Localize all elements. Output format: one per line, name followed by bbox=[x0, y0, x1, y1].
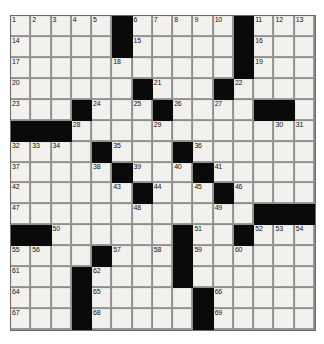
letter-cell[interactable] bbox=[52, 246, 72, 267]
letter-cell[interactable] bbox=[295, 267, 315, 288]
letter-cell[interactable]: 11 bbox=[254, 16, 274, 37]
letter-cell[interactable]: 22 bbox=[234, 79, 254, 100]
letter-cell[interactable] bbox=[72, 58, 92, 79]
letter-cell[interactable]: 7 bbox=[153, 16, 173, 37]
letter-cell[interactable] bbox=[31, 183, 51, 204]
letter-cell[interactable] bbox=[173, 288, 193, 309]
letter-cell[interactable] bbox=[193, 204, 213, 225]
crossword-grid[interactable]: 1234567891011121314151617181920212223242… bbox=[10, 15, 316, 331]
letter-cell[interactable]: 1 bbox=[11, 16, 31, 37]
letter-cell[interactable]: 37 bbox=[11, 163, 31, 184]
letter-cell[interactable] bbox=[153, 37, 173, 58]
letter-cell[interactable] bbox=[274, 79, 294, 100]
letter-cell[interactable] bbox=[133, 121, 153, 142]
letter-cell[interactable] bbox=[72, 37, 92, 58]
letter-cell[interactable]: 30 bbox=[274, 121, 294, 142]
letter-cell[interactable]: 10 bbox=[214, 16, 234, 37]
letter-cell[interactable] bbox=[295, 309, 315, 330]
letter-cell[interactable]: 55 bbox=[11, 246, 31, 267]
letter-cell[interactable] bbox=[173, 183, 193, 204]
letter-cell[interactable] bbox=[112, 121, 132, 142]
letter-cell[interactable] bbox=[72, 79, 92, 100]
letter-cell[interactable] bbox=[234, 309, 254, 330]
letter-cell[interactable] bbox=[72, 204, 92, 225]
letter-cell[interactable] bbox=[295, 142, 315, 163]
letter-cell[interactable] bbox=[133, 267, 153, 288]
letter-cell[interactable] bbox=[274, 58, 294, 79]
letter-cell[interactable]: 60 bbox=[234, 246, 254, 267]
letter-cell[interactable] bbox=[31, 267, 51, 288]
letter-cell[interactable] bbox=[92, 37, 112, 58]
letter-cell[interactable] bbox=[72, 246, 92, 267]
letter-cell[interactable]: 40 bbox=[173, 163, 193, 184]
letter-cell[interactable] bbox=[133, 309, 153, 330]
letter-cell[interactable]: 18 bbox=[112, 58, 132, 79]
letter-cell[interactable]: 17 bbox=[11, 58, 31, 79]
letter-cell[interactable] bbox=[274, 288, 294, 309]
letter-cell[interactable] bbox=[31, 37, 51, 58]
letter-cell[interactable] bbox=[52, 79, 72, 100]
letter-cell[interactable] bbox=[112, 225, 132, 246]
letter-cell[interactable]: 45 bbox=[193, 183, 213, 204]
letter-cell[interactable] bbox=[173, 121, 193, 142]
letter-cell[interactable] bbox=[193, 58, 213, 79]
letter-cell[interactable] bbox=[193, 121, 213, 142]
letter-cell[interactable] bbox=[52, 163, 72, 184]
letter-cell[interactable] bbox=[173, 37, 193, 58]
letter-cell[interactable]: 2 bbox=[31, 16, 51, 37]
letter-cell[interactable] bbox=[274, 37, 294, 58]
letter-cell[interactable] bbox=[193, 37, 213, 58]
letter-cell[interactable]: 35 bbox=[112, 142, 132, 163]
letter-cell[interactable] bbox=[274, 163, 294, 184]
letter-cell[interactable] bbox=[234, 267, 254, 288]
letter-cell[interactable]: 57 bbox=[112, 246, 132, 267]
letter-cell[interactable] bbox=[214, 246, 234, 267]
letter-cell[interactable] bbox=[72, 225, 92, 246]
letter-cell[interactable]: 23 bbox=[11, 100, 31, 121]
letter-cell[interactable] bbox=[31, 100, 51, 121]
letter-cell[interactable] bbox=[52, 267, 72, 288]
letter-cell[interactable]: 25 bbox=[133, 100, 153, 121]
letter-cell[interactable] bbox=[52, 309, 72, 330]
letter-cell[interactable] bbox=[153, 288, 173, 309]
letter-cell[interactable] bbox=[295, 58, 315, 79]
letter-cell[interactable] bbox=[31, 204, 51, 225]
letter-cell[interactable] bbox=[31, 288, 51, 309]
letter-cell[interactable] bbox=[133, 225, 153, 246]
letter-cell[interactable] bbox=[153, 204, 173, 225]
letter-cell[interactable] bbox=[173, 79, 193, 100]
letter-cell[interactable] bbox=[133, 288, 153, 309]
letter-cell[interactable]: 41 bbox=[214, 163, 234, 184]
letter-cell[interactable] bbox=[254, 121, 274, 142]
letter-cell[interactable] bbox=[153, 58, 173, 79]
letter-cell[interactable]: 12 bbox=[274, 16, 294, 37]
letter-cell[interactable] bbox=[254, 183, 274, 204]
letter-cell[interactable] bbox=[72, 183, 92, 204]
letter-cell[interactable] bbox=[234, 163, 254, 184]
letter-cell[interactable]: 46 bbox=[234, 183, 254, 204]
letter-cell[interactable]: 51 bbox=[193, 225, 213, 246]
letter-cell[interactable]: 54 bbox=[295, 225, 315, 246]
letter-cell[interactable]: 65 bbox=[92, 288, 112, 309]
letter-cell[interactable] bbox=[214, 37, 234, 58]
letter-cell[interactable] bbox=[295, 246, 315, 267]
letter-cell[interactable]: 42 bbox=[11, 183, 31, 204]
letter-cell[interactable] bbox=[295, 163, 315, 184]
letter-cell[interactable] bbox=[52, 204, 72, 225]
letter-cell[interactable]: 58 bbox=[153, 246, 173, 267]
letter-cell[interactable]: 38 bbox=[92, 163, 112, 184]
letter-cell[interactable] bbox=[254, 163, 274, 184]
letter-cell[interactable] bbox=[112, 267, 132, 288]
letter-cell[interactable] bbox=[254, 142, 274, 163]
letter-cell[interactable] bbox=[214, 58, 234, 79]
letter-cell[interactable] bbox=[295, 100, 315, 121]
letter-cell[interactable]: 20 bbox=[11, 79, 31, 100]
letter-cell[interactable] bbox=[112, 79, 132, 100]
letter-cell[interactable]: 15 bbox=[133, 37, 153, 58]
letter-cell[interactable] bbox=[214, 267, 234, 288]
letter-cell[interactable]: 19 bbox=[254, 58, 274, 79]
letter-cell[interactable] bbox=[133, 58, 153, 79]
letter-cell[interactable]: 36 bbox=[193, 142, 213, 163]
letter-cell[interactable]: 26 bbox=[173, 100, 193, 121]
letter-cell[interactable]: 56 bbox=[31, 246, 51, 267]
